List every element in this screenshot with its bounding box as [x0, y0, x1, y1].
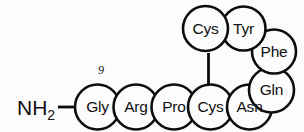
amino-terminus-subscript: 2	[47, 107, 55, 123]
residue-label-gly: Gly	[86, 98, 109, 115]
residue-label-cys-top: Cys	[192, 20, 219, 37]
peptide-diagram: Gly Arg Pro Cys Asn Gln Phe Tyr Cys 9 NH…	[0, 0, 304, 132]
residue-label-asn: Asn	[236, 98, 262, 115]
peptide-structure-svg: Gly Arg Pro Cys Asn Gln Phe Tyr Cys 9 NH…	[0, 0, 304, 132]
residue-label-phe: Phe	[261, 43, 288, 60]
residue-label-tyr: Tyr	[233, 20, 254, 37]
residue-label-arg: Arg	[124, 98, 148, 115]
position-number-label: 9	[98, 63, 104, 77]
residue-label-cys-bottom: Cys	[197, 98, 224, 115]
amino-terminus-label: NH2	[17, 96, 55, 123]
amino-terminus-main: NH	[17, 96, 47, 119]
residue-label-gln: Gln	[260, 81, 284, 98]
residue-label-pro: Pro	[162, 98, 186, 115]
